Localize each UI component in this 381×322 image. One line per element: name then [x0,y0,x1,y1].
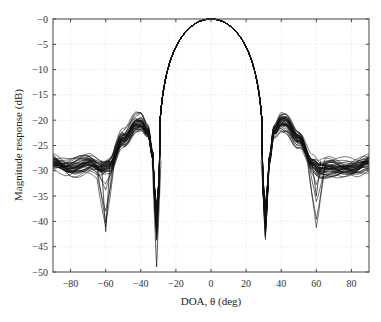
x-tick-label: 60 [311,278,321,289]
y-tick-label: −5 [37,39,48,50]
response-curve [53,19,369,227]
response-curve [53,19,369,226]
y-tick-label: −30 [32,165,48,176]
response-curve [53,19,369,215]
y-tick-label: −50 [32,267,48,278]
y-tick-label: −0 [37,14,48,25]
grid-lines [53,19,369,272]
x-axis-label: DOA, θ (deg) [181,295,242,308]
response-curve [53,19,369,237]
y-tick-label: −45 [32,241,48,252]
y-tick-label: −15 [32,89,48,100]
y-tick-label: −20 [32,115,48,126]
x-tick-label: 40 [276,278,286,289]
x-tick-label: −40 [133,278,149,289]
magnitude-response-chart: −80−60−40−20020406080 −0−5−10−15−20−25−3… [0,0,381,322]
response-curve [53,19,369,229]
y-tick-label: −40 [32,216,48,227]
y-tick-label: −35 [32,191,48,202]
x-axis-ticks: −80−60−40−20020406080 [63,19,357,289]
x-tick-label: 80 [346,278,356,289]
x-tick-label: −20 [168,278,184,289]
y-tick-label: −25 [32,140,48,151]
y-axis-label: Magnitude response (dB) [12,89,25,201]
x-tick-label: −60 [98,278,114,289]
x-tick-label: −80 [63,278,79,289]
y-tick-label: −10 [32,64,48,75]
response-curve [53,19,369,234]
x-tick-label: 0 [209,278,214,289]
x-tick-label: 20 [241,278,251,289]
